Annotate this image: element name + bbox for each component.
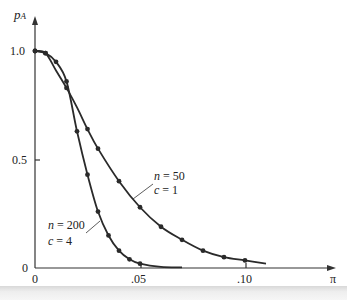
data-point: [75, 129, 80, 134]
data-point: [33, 49, 38, 54]
data-point: [180, 237, 185, 242]
data-point: [138, 261, 143, 266]
x-tick-label-10: .10: [237, 273, 252, 285]
y-tick-label-05: 0.5: [12, 154, 27, 166]
data-point: [138, 205, 143, 210]
data-point: [85, 172, 90, 177]
annotation-c4-value: = 4: [53, 234, 72, 248]
y-axis-label: pA: [14, 8, 26, 21]
x-axis-arrow-icon: [327, 265, 336, 271]
data-point: [64, 79, 69, 84]
data-point: [117, 248, 122, 253]
data-point: [96, 146, 101, 151]
page-edge: [0, 286, 347, 300]
data-point: [117, 179, 122, 184]
data-point: [243, 258, 248, 263]
annotation-n50-value: = 50: [160, 169, 185, 183]
data-point: [43, 51, 48, 56]
y-tick-label-0: 0: [22, 262, 28, 274]
data-point: [127, 257, 132, 262]
y-tick-label-1: 1.0: [10, 45, 25, 57]
chart-plot: [0, 0, 347, 300]
data-point: [85, 127, 90, 132]
x-axis-label: π: [330, 273, 336, 285]
data-point: [222, 255, 227, 260]
annotation-n200-value: = 200: [54, 218, 85, 232]
y-axis-arrow-icon: [32, 16, 38, 25]
annotation-c4: c = 4: [48, 235, 72, 247]
data-point: [106, 233, 111, 238]
data-point: [96, 209, 101, 214]
x-tick-label-0: 0: [32, 273, 38, 285]
data-point: [159, 224, 164, 229]
annotation-n50: n = 50: [154, 170, 185, 182]
annotation-n200: n = 200: [48, 219, 85, 231]
annotation-c1: c = 1: [154, 184, 178, 196]
annotation-leader-n50: [133, 184, 153, 199]
y-axis-label-sub: A: [21, 11, 27, 21]
x-tick-label-05: .05: [131, 273, 146, 285]
data-point: [201, 248, 206, 253]
annotation-leader-n200: [86, 221, 100, 233]
annotation-c1-value: = 1: [159, 183, 178, 197]
data-point: [54, 59, 59, 64]
